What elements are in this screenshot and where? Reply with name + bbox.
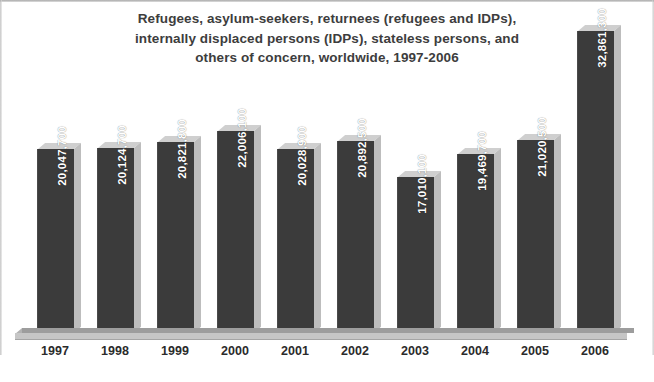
bar-value-label-2003: 17,010,100: [416, 154, 428, 214]
bar-value-label-1997: 20,047,700: [56, 126, 68, 186]
bar-1997: 20,047,700: [37, 149, 74, 333]
bar-side-face-2000: [254, 125, 261, 333]
x-axis-label-2004: 2004: [447, 344, 503, 358]
x-axis-label-2003: 2003: [387, 344, 443, 358]
x-axis-label-2002: 2002: [327, 344, 383, 358]
bar-value-label-2004: 19,469,700: [476, 131, 488, 191]
x-axis-label-2005: 2005: [507, 344, 563, 358]
bar-value-label-2006: 32,861,300: [596, 8, 608, 68]
x-axis-label-2001: 2001: [267, 344, 323, 358]
bar-side-face-2006: [614, 25, 621, 333]
bar-side-face-1998: [134, 142, 141, 333]
bar-2001: 20,028,900: [277, 149, 314, 333]
bar-value-label-1999: 20,821,800: [176, 119, 188, 179]
bar-2006: 32,861,300: [577, 31, 614, 333]
x-axis-label-1997: 1997: [27, 344, 83, 358]
bar-value-label-2001: 20,028,900: [296, 126, 308, 186]
x-axis-label-1998: 1998: [87, 344, 143, 358]
bar-2000: 22,006,100: [217, 131, 254, 333]
bar-2002: 20,892,500: [337, 141, 374, 333]
bar-side-face-1999: [194, 136, 201, 333]
bar-side-face-2001: [314, 143, 321, 333]
x-axis-label-2006: 2006: [567, 344, 623, 358]
x-axis-label-2000: 2000: [207, 344, 263, 358]
bar-value-label-1998: 20,124,700: [116, 125, 128, 185]
chart-container: Refugees, asylum-seekers, returnees (ref…: [0, 0, 654, 382]
bar-2003: 17,010,100: [397, 177, 434, 333]
bar-1998: 20,124,700: [97, 148, 134, 333]
bar-side-face-2002: [374, 135, 381, 333]
bar-value-label-2000: 22,006,100: [236, 108, 248, 168]
axis-baseline: [15, 333, 627, 340]
bar-value-label-2002: 20,892,500: [356, 118, 368, 178]
bar-side-face-2005: [554, 134, 561, 333]
bar-2004: 19,469,700: [457, 154, 494, 333]
bar-1999: 20,821,800: [157, 142, 194, 333]
bar-side-face-2004: [494, 148, 501, 333]
bar-side-face-2003: [434, 171, 441, 333]
bar-2005: 21,020,500: [517, 140, 554, 333]
plot-area: 20,047,70020,124,70020,821,80022,006,100…: [0, 0, 654, 345]
x-axis-label-1999: 1999: [147, 344, 203, 358]
bar-side-face-1997: [74, 143, 81, 333]
bar-value-label-2005: 21,020,500: [536, 117, 548, 177]
